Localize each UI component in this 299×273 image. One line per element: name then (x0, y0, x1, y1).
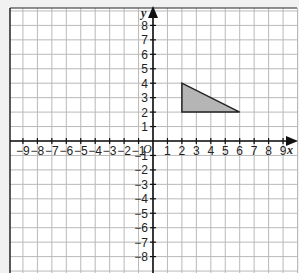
x-tick-label: 8 (265, 144, 272, 158)
x-tick-label: −7 (45, 144, 59, 158)
y-tick-label: 8 (141, 19, 148, 33)
x-tick-label: −9 (16, 144, 30, 158)
y-tick-label: −7 (134, 236, 148, 250)
x-tick-label: −6 (59, 144, 73, 158)
y-tick-label: −6 (134, 221, 148, 235)
origin-label: O (143, 142, 152, 156)
x-tick-label: 7 (251, 144, 258, 158)
y-tick-label: 5 (141, 62, 148, 76)
y-tick-label: 1 (141, 120, 148, 134)
y-tick-label: 2 (141, 106, 148, 120)
x-tick-label: 9 (280, 144, 287, 158)
x-tick-label: 1 (164, 144, 171, 158)
y-tick-label: 6 (141, 48, 148, 62)
x-tick-label: 6 (236, 144, 243, 158)
coordinate-grid: −9−8−7−6−5−4−3−2−1123456789 87654321−1−2… (0, 0, 299, 273)
x-tick-label: 5 (222, 144, 229, 158)
y-tick-label: 4 (141, 77, 148, 91)
x-tick-label: 2 (179, 144, 186, 158)
y-tick-label: −3 (134, 178, 148, 192)
x-axis-label: x (286, 143, 293, 157)
y-tick-label: 3 (141, 91, 148, 105)
x-tick-label: 3 (193, 144, 200, 158)
x-tick-label: −3 (103, 144, 117, 158)
y-tick-label: 7 (141, 33, 148, 47)
x-tick-label: −2 (117, 144, 131, 158)
x-tick-label: −5 (74, 144, 88, 158)
x-tick-label: −4 (88, 144, 102, 158)
y-tick-label: −5 (134, 207, 148, 221)
y-tick-label: −4 (134, 192, 148, 206)
y-axis-label: y (139, 6, 147, 20)
x-tick-label: −8 (31, 144, 45, 158)
x-tick-label: 4 (207, 144, 214, 158)
y-tick-label: −2 (134, 163, 148, 177)
y-tick-label: −8 (134, 250, 148, 264)
